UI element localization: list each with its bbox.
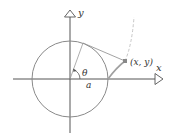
involute-diagram: y x (x, y) θ a <box>0 0 170 138</box>
y-axis-label: y <box>77 7 84 18</box>
x-axis-label: x <box>156 62 162 73</box>
x-axis-arrow-icon <box>155 74 163 85</box>
radius-label: a <box>86 80 91 90</box>
point-label: (x, y) <box>130 57 153 67</box>
involute-curve-continuation <box>125 17 134 61</box>
point-marker <box>123 59 127 63</box>
theta-label: θ <box>82 68 88 78</box>
involute-curve <box>108 61 125 79</box>
angle-arc <box>74 70 80 79</box>
y-axis-arrow-icon <box>65 10 76 17</box>
tangent-line <box>83 43 125 61</box>
